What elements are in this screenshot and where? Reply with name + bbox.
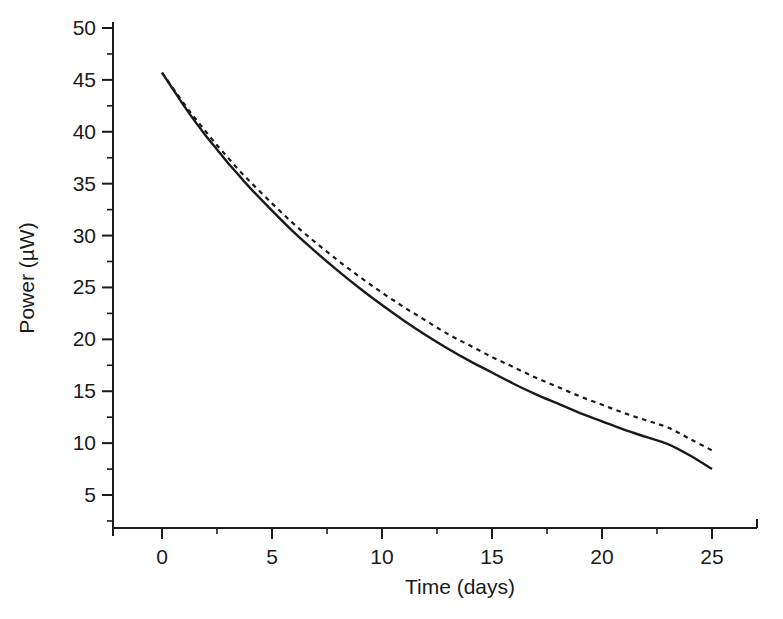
y-tick-label-45: 45 (73, 68, 96, 91)
y-axis-title: Power (µW) (15, 222, 38, 333)
x-tick-label-15: 15 (480, 545, 503, 568)
x-tick-label-20: 20 (590, 545, 613, 568)
y-tick-label-20: 20 (73, 327, 96, 350)
power-vs-time-line-chart: 5101520253035404550 0510152025 Time (day… (0, 0, 783, 619)
y-tick-label-25: 25 (73, 275, 96, 298)
x-tick-label-5: 5 (266, 545, 278, 568)
y-tick-label-30: 30 (73, 224, 96, 247)
y-tick-label-40: 40 (73, 120, 96, 143)
x-tick-label-0: 0 (156, 545, 168, 568)
y-tick-label-10: 10 (73, 431, 96, 454)
x-tick-label-25: 25 (700, 545, 723, 568)
x-axis-title: Time (days) (405, 575, 515, 598)
x-tick-label-10: 10 (370, 545, 393, 568)
y-tick-label-35: 35 (73, 172, 96, 195)
chart-figure: 5101520253035404550 0510152025 Time (day… (0, 0, 783, 619)
y-tick-label-5: 5 (84, 483, 96, 506)
y-tick-label-15: 15 (73, 379, 96, 402)
y-tick-label-50: 50 (73, 16, 96, 39)
chart-background (0, 0, 783, 619)
